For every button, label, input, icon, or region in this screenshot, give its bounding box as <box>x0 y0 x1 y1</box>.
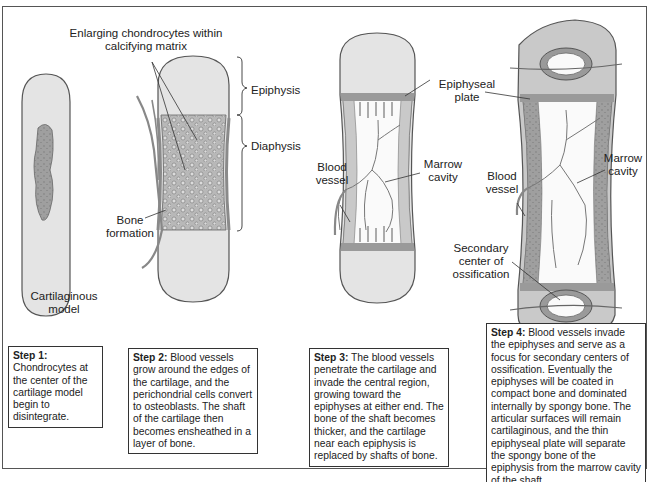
stage1-cartilage-model <box>22 74 70 316</box>
stage1-label: Cartilaginous model <box>28 290 100 316</box>
stage4-marrow-cavity-label: Marrow cavity <box>600 152 646 178</box>
stage3-epiphyseal-plate-label: Epiphyseal plate <box>436 78 498 104</box>
step-2-title: Step 2: <box>133 352 167 363</box>
step-1-title: Step 1: <box>13 350 47 361</box>
step-3-title: Step 3: <box>314 352 348 363</box>
stage4-blood-vessel-label: Blood vessel <box>482 170 522 196</box>
bone-formation-label: Bone formation <box>104 214 156 240</box>
step-1-box: Step 1: Chondrocytes at the center of th… <box>8 346 103 428</box>
secondary-center-label: Secondary center of ossification <box>448 242 514 281</box>
stage2-bone <box>137 56 247 302</box>
step-2-box: Step 2: Blood vessels grow around the ed… <box>128 348 258 454</box>
step-2-text: Blood vessels grow around the edges of t… <box>133 352 252 449</box>
step-4-text: Blood vessels invade the epiphyses and s… <box>491 327 641 482</box>
stage3-marrow-cavity-label: Marrow cavity <box>420 158 466 184</box>
enlarging-chondrocytes-label: Enlarging chondrocytes within calcifying… <box>64 27 228 53</box>
stage3-blood-vessel-label: Blood vessel <box>312 161 352 187</box>
step-3-text: The blood vessels penetrate the cartilag… <box>314 352 444 461</box>
diaphysis-label: Diaphysis <box>251 140 301 153</box>
epiphysis-label: Epiphysis <box>251 84 300 97</box>
step-4-title: Step 4: <box>491 327 525 338</box>
step-1-text: Chondrocytes at the center of the cartil… <box>13 362 88 422</box>
step-3-box: Step 3: The blood vessels penetrate the … <box>309 348 449 467</box>
step-4-box: Step 4: Blood vessels invade the epiphys… <box>486 323 646 482</box>
